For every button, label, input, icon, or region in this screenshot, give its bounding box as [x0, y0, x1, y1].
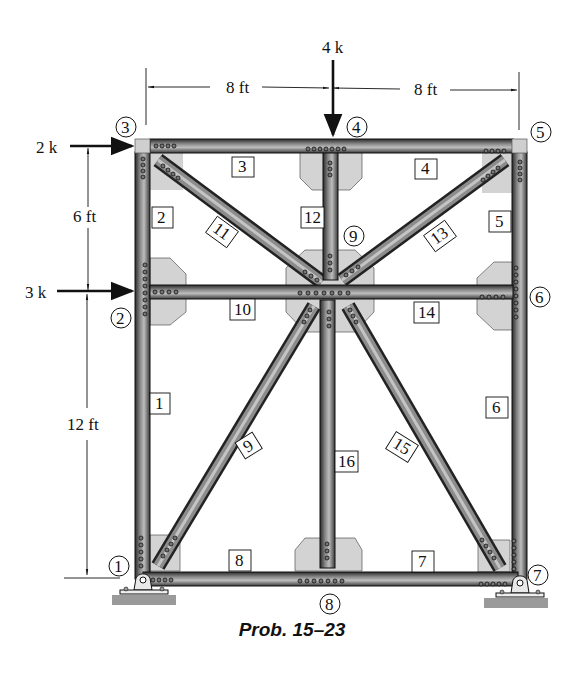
node-label-6: 6: [530, 287, 550, 307]
svg-text:6: 6: [492, 398, 501, 417]
svg-text:1: 1: [155, 394, 164, 413]
load-3k-label: 3 k: [25, 283, 47, 302]
svg-text:9: 9: [349, 227, 358, 246]
member-label-14: 14: [414, 302, 439, 323]
node-label-1: 1: [109, 556, 129, 576]
dim-top-left: 8 ft: [226, 78, 249, 97]
member-16: [320, 300, 335, 568]
member-label-6: 6: [486, 397, 508, 418]
svg-text:7: 7: [533, 566, 542, 585]
ground-right: [484, 598, 548, 608]
svg-text:1: 1: [114, 557, 123, 576]
dim-top-right: 8 ft: [414, 80, 437, 99]
svg-text:2: 2: [116, 309, 125, 328]
svg-text:10: 10: [234, 300, 251, 319]
svg-text:8: 8: [235, 551, 244, 570]
node-label-7: 7: [528, 565, 548, 585]
ground-left: [112, 595, 176, 605]
truss-diagram: 4 k 2 k 3 k 8 ft 8 ft 6 ft 12 ft 1 2 3 4…: [0, 0, 584, 675]
member-label-2: 2: [152, 207, 173, 228]
svg-text:3: 3: [121, 118, 130, 137]
svg-text:5: 5: [536, 123, 545, 142]
member-label-7: 7: [412, 551, 434, 572]
member-label-1: 1: [150, 393, 170, 414]
node-label-5: 5: [531, 122, 551, 142]
svg-text:4: 4: [352, 118, 361, 137]
member-right-column: [512, 152, 527, 579]
svg-text:5: 5: [495, 212, 504, 231]
member-label-15: 15: [386, 432, 419, 463]
corner-plate-node-3: [135, 139, 150, 153]
load-2k-label: 2 k: [36, 138, 58, 157]
member-label-16: 16: [335, 451, 358, 472]
member-label-4: 4: [415, 159, 437, 179]
dim-left-upper: 6 ft: [73, 207, 96, 226]
node-label-9: 9: [344, 226, 364, 246]
svg-text:14: 14: [418, 303, 436, 322]
caption-text: Prob. 15–23: [239, 619, 346, 641]
member-label-8: 8: [229, 550, 251, 571]
svg-text:4: 4: [421, 159, 430, 178]
member-bottom-chord: [143, 572, 518, 586]
corner-plate-node-5: [512, 139, 527, 153]
member-left-column: [135, 152, 150, 579]
node-label-2: 2: [111, 308, 131, 328]
svg-text:3: 3: [238, 157, 247, 176]
node-label-8: 8: [320, 594, 340, 614]
member-label-10: 10: [230, 299, 255, 320]
figure-caption: Prob. 15–23: [0, 619, 584, 641]
svg-text:7: 7: [418, 552, 427, 571]
load-4k-label: 4 k: [322, 38, 344, 57]
svg-text:8: 8: [325, 595, 334, 614]
node-label-4: 4: [347, 117, 367, 137]
svg-text:16: 16: [338, 452, 355, 471]
svg-text:12: 12: [304, 208, 321, 227]
svg-text:2: 2: [157, 208, 166, 227]
node-label-3: 3: [116, 117, 136, 137]
member-label-12: 12: [301, 207, 324, 228]
svg-text:6: 6: [535, 288, 544, 307]
dim-left-lower: 12 ft: [67, 415, 99, 434]
member-label-3: 3: [232, 157, 254, 177]
member-label-5: 5: [489, 211, 511, 232]
